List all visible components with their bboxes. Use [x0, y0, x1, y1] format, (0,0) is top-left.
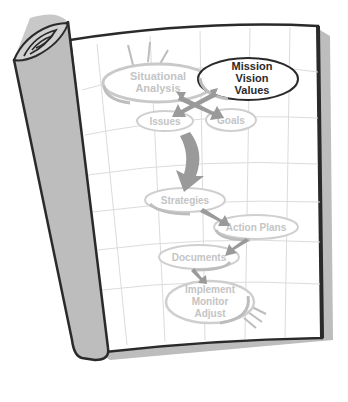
node-label: Action Plans [226, 222, 287, 233]
node-label: Adjust [194, 308, 226, 319]
node-label: Implement [185, 284, 236, 295]
curled-page-illustration: Situational Analysis Mission Vision Valu… [0, 0, 348, 402]
node-situational-analysis: Situational Analysis [103, 64, 213, 103]
node-implement-monitor-adjust: Implement Monitor Adjust [166, 281, 254, 323]
node-label: Monitor [192, 296, 229, 307]
node-label: Documents [172, 252, 227, 263]
node-label: Issues [149, 116, 181, 127]
node-documents: Documents [159, 245, 239, 270]
node-label: Values [235, 84, 270, 96]
node-label: Strategies [161, 195, 210, 206]
node-issues: Issues [137, 111, 193, 131]
node-label: Vision [236, 72, 269, 84]
node-label: Mission [232, 60, 273, 72]
node-label: Analysis [135, 82, 180, 94]
node-label: Situational [130, 70, 186, 82]
